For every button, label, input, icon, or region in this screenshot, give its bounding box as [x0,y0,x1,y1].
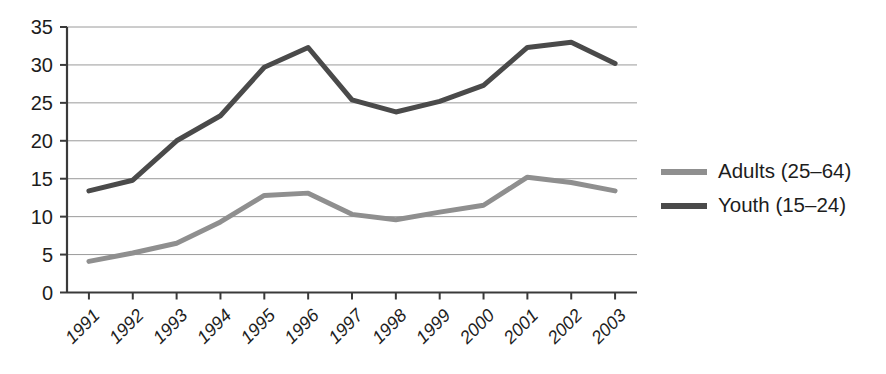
y-tick-label: 35 [31,16,53,38]
y-axis-tick-labels: 05101520253035 [31,16,53,304]
line-chart: 05101520253035 1991199219931994199519961… [0,0,886,374]
grid-lines [67,27,637,255]
y-tick-label: 25 [31,92,53,114]
y-tick-label: 15 [31,168,53,190]
x-tick-label: 2000 [455,305,498,348]
y-tick-label: 5 [42,244,53,266]
x-tick-label: 2002 [543,305,586,348]
legend-label: Youth (15–24) [718,193,846,216]
series-line-adults [89,177,615,261]
y-tick-label: 0 [42,282,53,304]
y-tick-label: 30 [31,54,53,76]
x-tick-label: 1993 [149,305,191,347]
y-axis [60,27,67,293]
x-tick-label: 1997 [324,304,367,347]
x-tick-label: 2003 [587,305,630,348]
y-tick-label: 20 [31,130,53,152]
legend-label: Adults (25–64) [718,159,851,182]
y-tick-label: 10 [31,206,53,228]
x-tick-label: 1999 [412,305,454,347]
x-tick-label: 1991 [61,305,103,347]
x-tick-label: 1992 [105,305,147,347]
x-tick-label: 1998 [368,305,410,347]
x-axis-tick-labels: 1991199219931994199519961997199819992000… [61,304,630,348]
chart-legend: Adults (25–64)Youth (15–24) [661,159,851,216]
x-tick-label: 2001 [499,305,542,348]
x-tick-label: 1996 [281,304,324,347]
data-series-group [89,42,615,261]
x-tick-label: 1995 [237,304,280,347]
x-axis [67,293,637,300]
x-tick-label: 1994 [193,305,235,347]
chart-canvas: 05101520253035 1991199219931994199519961… [0,0,886,374]
